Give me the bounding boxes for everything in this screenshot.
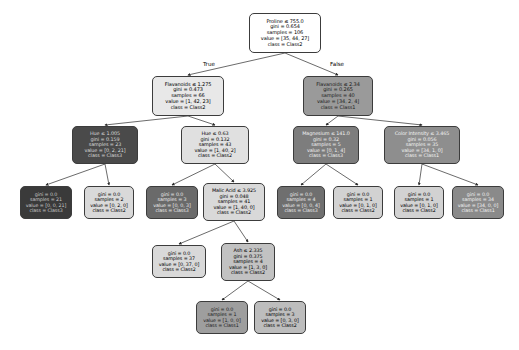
tree-node-n11: gini = 0.0samples = 4value = [0, 0, 4]cl… xyxy=(277,186,325,219)
tree-node-n17: gini = 0.0samples = 1value = [1, 0, 0]cl… xyxy=(196,301,248,334)
tree-node-n0: Proline ≤ 755.0gini = 0.654samples = 106… xyxy=(249,13,321,53)
edge-label-true: True xyxy=(203,61,215,67)
tree-node-n7: gini = 0.0samples = 21value = [0, 0, 21]… xyxy=(20,186,72,219)
tree-edge-n4-n9 xyxy=(172,164,215,185)
node-text-line: class = Class3 xyxy=(29,208,62,213)
tree-edge-n4-n10 xyxy=(215,164,234,182)
tree-node-n13: gini = 0.0samples = 1value = [0, 1, 0]cl… xyxy=(394,186,444,219)
tree-node-n3: Hue ≤ 1.005gini = 0.159samples = 23value… xyxy=(72,126,138,164)
tree-edge-n2-n5 xyxy=(326,116,338,125)
node-text-line: class = Class3 xyxy=(284,208,317,213)
tree-node-n16: Ash ≤ 2.335gini = 0.375samples = 4value … xyxy=(221,243,275,281)
tree-edge-n16-n17 xyxy=(222,281,248,300)
tree-edge-n3-n8 xyxy=(105,164,109,185)
tree-edge-n10-n15 xyxy=(179,221,234,244)
node-text-line: class = Class2 xyxy=(268,42,303,48)
edge-label-false: False xyxy=(330,61,344,67)
decision-tree-figure: Proline ≤ 755.0gini = 0.654samples = 106… xyxy=(0,0,519,350)
tree-edge-n10-n16 xyxy=(234,221,248,242)
node-text-line: class = Class2 xyxy=(402,208,435,213)
node-text-line: class = Class2 xyxy=(198,153,232,159)
tree-node-n9: gini = 0.0samples = 3value = [0, 0, 3]cl… xyxy=(146,186,198,219)
node-text-line: class = Class3 xyxy=(155,208,188,213)
tree-edge-n2-n6 xyxy=(338,116,422,125)
node-text-line: class = Class1 xyxy=(461,208,494,213)
tree-edge-n3-n7 xyxy=(46,164,105,185)
node-text-line: class = Class1 xyxy=(205,323,238,328)
tree-node-n6: Color Intensity ≤ 3.465gini = 0.056sampl… xyxy=(384,126,460,164)
tree-edge-n5-n11 xyxy=(301,164,326,185)
tree-node-n14: gini = 0.0samples = 34value = [34, 0, 0]… xyxy=(452,186,504,219)
node-text-line: class = Class2 xyxy=(92,208,125,213)
tree-edge-n1-n4 xyxy=(188,116,215,125)
tree-node-n8: gini = 0.0samples = 2value = [0, 2, 0]cl… xyxy=(84,186,134,219)
tree-edge-n16-n18 xyxy=(248,281,280,300)
node-text-line: class = Class2 xyxy=(217,210,251,216)
node-text-line: class = Class2 xyxy=(341,208,374,213)
node-text-line: class = Class2 xyxy=(162,267,195,272)
node-text-line: class = Class2 xyxy=(171,105,206,111)
node-text-line: class = Class3 xyxy=(309,153,343,159)
node-text-line: class = Class2 xyxy=(231,270,265,276)
tree-node-n15: gini = 0.0samples = 37value = [0, 37, 0]… xyxy=(152,245,206,278)
tree-edge-n1-n3 xyxy=(105,116,188,125)
tree-node-n4: Hue ≤ 0.63gini = 0.132samples = 43value … xyxy=(181,126,249,164)
tree-node-n12: gini = 0.0samples = 1value = [0, 1, 0]cl… xyxy=(333,186,383,219)
tree-node-n2: Flavanoids ≤ 2.34gini = 0.265samples = 4… xyxy=(303,76,373,116)
tree-edge-n6-n13 xyxy=(419,164,422,185)
node-text-line: class = Class3 xyxy=(88,153,122,159)
node-text-line: class = Class2 xyxy=(263,323,296,328)
tree-node-n5: Magnesium ≤ 141.0gini = 0.32samples = 5v… xyxy=(293,126,359,164)
tree-node-n1: Flavanoids ≤ 1.275gini = 0.473samples = … xyxy=(152,76,224,116)
node-text-line: class = Class1 xyxy=(405,153,439,159)
tree-node-n18: gini = 0.0samples = 3value = [0, 3, 0]cl… xyxy=(254,301,306,334)
node-text-line: class = Class1 xyxy=(321,105,356,111)
tree-edge-n5-n12 xyxy=(326,164,358,185)
tree-node-n10: Malic Acid ≤ 3.925gini = 0.048samples = … xyxy=(203,183,265,221)
tree-edge-n6-n14 xyxy=(422,164,478,185)
